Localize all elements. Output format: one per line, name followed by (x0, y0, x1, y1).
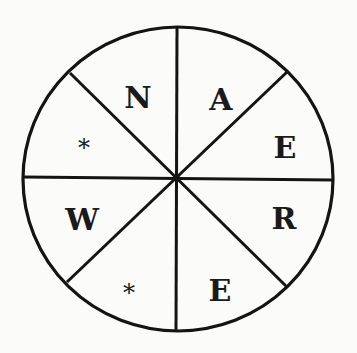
segment-letter-r: R (272, 201, 298, 236)
segment-letter-e-upper: E (274, 130, 297, 165)
segment-letter-n: N (124, 80, 151, 115)
segment-blank-asterisk-bottom: * (123, 279, 135, 307)
segment-letter-a: A (208, 82, 233, 117)
word-wheel-diagram: A E R E * W * N (0, 0, 357, 353)
wheel-hub (174, 175, 180, 181)
segment-blank-asterisk-left: * (78, 134, 90, 162)
segment-letter-w: W (64, 202, 100, 237)
segment-letter-e-lower: E (209, 273, 232, 308)
